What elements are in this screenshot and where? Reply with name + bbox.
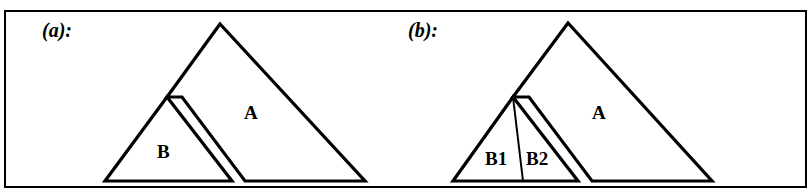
- figure-root: (a): A B (b): A B1 B2: [0, 0, 812, 195]
- panel-a-triangle-a-outline: [167, 24, 365, 181]
- panel-a-label-a: A: [244, 103, 258, 122]
- panel-b-label-b1: B1: [485, 149, 507, 168]
- panel-b-label-b2: B2: [526, 149, 548, 168]
- panel-a-caption: (a):: [42, 20, 72, 40]
- panel-a-drawing: [0, 0, 812, 195]
- panel-b-caption: (b):: [408, 20, 438, 40]
- panel-b-label-a: A: [592, 103, 606, 122]
- panel-a-label-b: B: [157, 142, 170, 161]
